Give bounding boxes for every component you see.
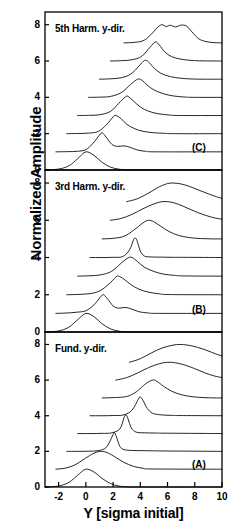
panel-title: Fund. y-dir. <box>55 343 107 354</box>
x-tick-label: 0 <box>73 492 99 502</box>
y-tick-label: 2 <box>18 446 40 456</box>
trace <box>45 152 222 170</box>
y-tick-label: 0 <box>18 165 40 175</box>
trace <box>102 380 222 398</box>
trace <box>45 469 222 487</box>
trace <box>127 183 222 202</box>
x-tick-label: 6 <box>155 492 181 502</box>
panel-title: 3rd Harm. y-dir. <box>55 181 125 192</box>
y-tick-label: 2 <box>18 290 40 300</box>
trace <box>78 415 222 434</box>
panel-tag: (C) <box>192 142 206 153</box>
panel-title: 5th Harm. y-dir. <box>55 23 125 34</box>
y-tick-label: 4 <box>18 92 40 102</box>
y-tick-label: 8 <box>18 339 40 349</box>
trace <box>90 238 222 258</box>
trace <box>45 313 222 332</box>
y-tick-label: 0 <box>18 327 40 337</box>
panel-tag: (B) <box>192 304 206 315</box>
trace <box>89 79 222 97</box>
x-tick-label: 8 <box>182 492 208 502</box>
y-tick-label: 6 <box>18 56 40 66</box>
trace <box>78 257 222 276</box>
trace <box>110 42 222 61</box>
trace <box>99 60 222 79</box>
trace <box>78 96 222 116</box>
x-tick-label: 4 <box>127 492 153 502</box>
trace <box>124 25 222 43</box>
trace <box>90 397 222 416</box>
y-tick-label: 8 <box>18 20 40 30</box>
y-tick-label: 6 <box>18 375 40 385</box>
x-tick-label: 10 <box>209 492 233 502</box>
trace <box>67 276 222 295</box>
trace <box>129 344 222 362</box>
trace <box>110 202 222 221</box>
trace <box>102 220 222 239</box>
y-tick-label: 4 <box>18 411 40 421</box>
trace <box>116 362 222 380</box>
trace <box>67 433 222 452</box>
y-tick-label: 2 <box>18 129 40 139</box>
y-tick-label: 6 <box>18 215 40 225</box>
y-tick-label: 8 <box>18 178 40 188</box>
panel-tag: (A) <box>192 459 206 470</box>
y-tick-label: 0 <box>18 482 40 492</box>
x-axis-label: Y [sigma initial] <box>44 505 223 521</box>
y-tick-label: 4 <box>18 253 40 263</box>
x-tick-label: 2 <box>100 492 126 502</box>
figure-container: Normalized Amplitude Y [sigma initial] 5… <box>0 0 233 529</box>
x-tick-label: -2 <box>46 492 72 502</box>
trace <box>67 115 222 133</box>
